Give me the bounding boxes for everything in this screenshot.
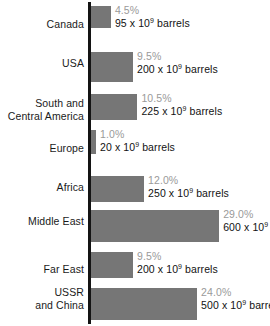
value-block: 29.0%600 x 109 barrels <box>223 208 270 234</box>
percent-value: 9.5% <box>137 250 218 263</box>
barrels-value: 95 x 109 barrels <box>115 17 190 30</box>
barrels-value-base: 20 x 10 <box>100 141 135 153</box>
bar <box>91 252 133 278</box>
barrels-value-base: 95 x 10 <box>115 17 150 29</box>
barrels-value-base: 500 x 10 <box>201 299 242 311</box>
barrels-value: 200 x 109 barrels <box>137 63 218 76</box>
barrels-value: 200 x 109 barrels <box>137 263 218 276</box>
value-block: 10.5%225 x 109 barrels <box>141 92 222 118</box>
category-label-line1: South and <box>35 97 84 109</box>
barrels-value: 20 x 109 barrels <box>100 141 175 154</box>
barrels-value-suffix: barrels <box>246 299 270 311</box>
percent-value: 24.0% <box>201 286 270 299</box>
percent-value: 29.0% <box>223 208 270 221</box>
percent-value: 9.5% <box>137 50 218 63</box>
barrels-value-suffix: barrels <box>182 63 218 75</box>
barrels-value-base: 250 x 10 <box>148 187 189 199</box>
value-block: 9.5%200 x 109 barrels <box>137 250 218 276</box>
barrels-value-base: 600 x 10 <box>223 221 264 233</box>
category-label: South andCentral America <box>0 97 84 122</box>
category-label-line1: Europe <box>50 142 84 154</box>
category-label-line1: Canada <box>47 18 84 30</box>
value-block: 9.5%200 x 109 barrels <box>137 50 218 76</box>
barrels-value-base: 225 x 10 <box>141 105 182 117</box>
bar <box>91 130 96 154</box>
value-block: 1.0%20 x 109 barrels <box>100 128 175 154</box>
category-label-line1: USA <box>62 57 84 69</box>
barrels-value-base: 200 x 10 <box>137 63 178 75</box>
barrels-value-suffix: barrels <box>268 221 270 233</box>
barrels-value: 250 x 109 barrels <box>148 187 229 200</box>
bar <box>91 176 144 202</box>
bar <box>91 52 133 82</box>
category-label-line1: Middle East <box>28 215 84 227</box>
barrels-value: 225 x 109 barrels <box>141 105 222 118</box>
category-label: Middle East <box>0 215 84 228</box>
barrels-value-base: 200 x 10 <box>137 263 178 275</box>
barrels-value: 600 x 109 barrels <box>223 221 270 234</box>
category-label-line1: USSR <box>54 286 84 298</box>
category-label: Europe <box>0 142 84 155</box>
category-label: USSRand China <box>0 286 84 311</box>
category-label: Africa <box>0 181 84 194</box>
horizontal-bar-chart: Canada4.5%95 x 109 barrelsUSA9.5%200 x 1… <box>0 0 270 326</box>
value-block: 4.5%95 x 109 barrels <box>115 4 190 30</box>
category-label: Far East <box>0 263 84 276</box>
category-label-line1: Africa <box>57 181 84 193</box>
barrels-value-suffix: barrels <box>139 141 175 153</box>
category-label: USA <box>0 57 84 70</box>
percent-value: 4.5% <box>115 4 190 17</box>
category-label-line2: Central America <box>0 110 84 123</box>
barrels-value-suffix: barrels <box>154 17 190 29</box>
category-label: Canada <box>0 18 84 31</box>
percent-value: 10.5% <box>141 92 222 105</box>
value-block: 12.0%250 x 109 barrels <box>148 174 229 200</box>
percent-value: 1.0% <box>100 128 175 141</box>
barrels-value: 500 x 109 barrels <box>201 299 270 312</box>
bar <box>91 6 111 28</box>
percent-value: 12.0% <box>148 174 229 187</box>
bar <box>91 210 219 242</box>
bar <box>91 94 137 120</box>
category-label-line1: Far East <box>44 263 84 275</box>
barrels-value-suffix: barrels <box>193 187 229 199</box>
category-label-line2: and China <box>0 299 84 312</box>
barrels-value-suffix: barrels <box>182 263 218 275</box>
value-block: 24.0%500 x 109 barrels <box>201 286 270 312</box>
bar <box>91 288 197 320</box>
barrels-value-suffix: barrels <box>187 105 223 117</box>
